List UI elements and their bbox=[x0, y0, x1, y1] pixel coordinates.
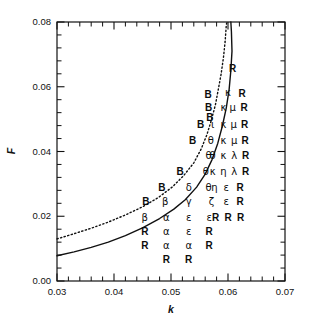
data-marker-κ: κ bbox=[225, 88, 231, 98]
data-marker-ε: ε bbox=[224, 183, 229, 193]
data-marker-β: β bbox=[142, 213, 148, 223]
data-marker-R: R bbox=[239, 89, 246, 99]
data-marker-R: R bbox=[229, 64, 236, 74]
x-tick-label: 0.07 bbox=[263, 286, 307, 297]
data-marker-α: α bbox=[163, 213, 170, 223]
x-tick-label: 0.05 bbox=[149, 286, 193, 297]
data-marker-B: B bbox=[189, 136, 196, 146]
plot-frame bbox=[57, 22, 285, 281]
data-marker-B: B bbox=[176, 167, 183, 177]
data-marker-μ: μ bbox=[229, 103, 235, 113]
y-tick-label: 0.08 bbox=[5, 16, 51, 27]
data-marker-ι: ι bbox=[211, 120, 214, 130]
data-marker-δ: δ bbox=[186, 183, 192, 193]
data-marker-θ: θ bbox=[208, 136, 214, 146]
data-marker-α: α bbox=[163, 227, 170, 237]
data-marker-β: β bbox=[162, 197, 168, 207]
data-marker-R: R bbox=[185, 255, 192, 265]
data-marker-R: R bbox=[206, 241, 213, 251]
data-marker-R: R bbox=[141, 227, 148, 237]
data-marker-ε: ε bbox=[186, 213, 191, 223]
data-marker-R: R bbox=[206, 227, 213, 237]
data-marker-B: B bbox=[142, 197, 149, 207]
x-tick-label: 0.06 bbox=[206, 286, 250, 297]
data-marker-R: R bbox=[236, 183, 243, 193]
figure-canvas: RκBRBκμRBBικμRBθκμRθθκλRBθκηλRBδθηεRBβγζ… bbox=[0, 0, 309, 326]
x-axis-label: k bbox=[151, 303, 191, 315]
data-marker-λ: λ bbox=[231, 167, 237, 177]
data-marker-R: R bbox=[237, 213, 244, 223]
y-tick-label: 0.00 bbox=[5, 275, 51, 286]
y-tick-label: 0.06 bbox=[5, 81, 51, 92]
data-marker-η: η bbox=[211, 183, 217, 193]
data-marker-κ: κ bbox=[220, 151, 226, 161]
data-marker-ε: ε bbox=[224, 197, 229, 207]
data-marker-B: B bbox=[158, 183, 165, 193]
data-marker-γ: γ bbox=[186, 197, 192, 207]
data-marker-R: R bbox=[212, 213, 219, 223]
data-marker-μ: μ bbox=[231, 120, 237, 130]
data-marker-κ: κ bbox=[220, 103, 226, 113]
data-marker-μ: μ bbox=[231, 136, 237, 146]
data-marker-R: R bbox=[241, 120, 248, 130]
data-marker-B: B bbox=[197, 120, 204, 130]
x-tick-label: 0.03 bbox=[35, 286, 79, 297]
data-marker-κ: κ bbox=[220, 136, 226, 146]
data-marker-θ: θ bbox=[210, 151, 216, 161]
data-marker-R: R bbox=[241, 136, 248, 146]
data-marker-R: R bbox=[242, 151, 249, 161]
data-marker-R: R bbox=[163, 255, 170, 265]
y-axis-label: F bbox=[5, 147, 17, 153]
data-marker-κ: κ bbox=[220, 120, 226, 130]
data-marker-ε: ε bbox=[186, 227, 191, 237]
data-marker-B: B bbox=[204, 90, 211, 100]
data-marker-θ: θ bbox=[203, 167, 209, 177]
data-marker-R: R bbox=[242, 167, 249, 177]
data-marker-R: R bbox=[240, 103, 247, 113]
data-marker-R: R bbox=[236, 197, 243, 207]
data-marker-R: R bbox=[141, 241, 148, 251]
data-marker-κ: κ bbox=[210, 167, 216, 177]
data-marker-R: R bbox=[224, 213, 231, 223]
plot-stage: RκBRBκμRBBικμRBθκμRθθκλRBθκηλRBδθηεRBβγζ… bbox=[0, 0, 309, 326]
data-marker-η: η bbox=[220, 167, 226, 177]
data-marker-α: α bbox=[163, 241, 170, 251]
x-tick-label: 0.04 bbox=[92, 286, 136, 297]
data-marker-α: α bbox=[185, 241, 192, 251]
data-marker-λ: λ bbox=[231, 151, 237, 161]
y-tick-label: 0.02 bbox=[5, 210, 51, 221]
data-marker-ζ: ζ bbox=[209, 197, 214, 207]
